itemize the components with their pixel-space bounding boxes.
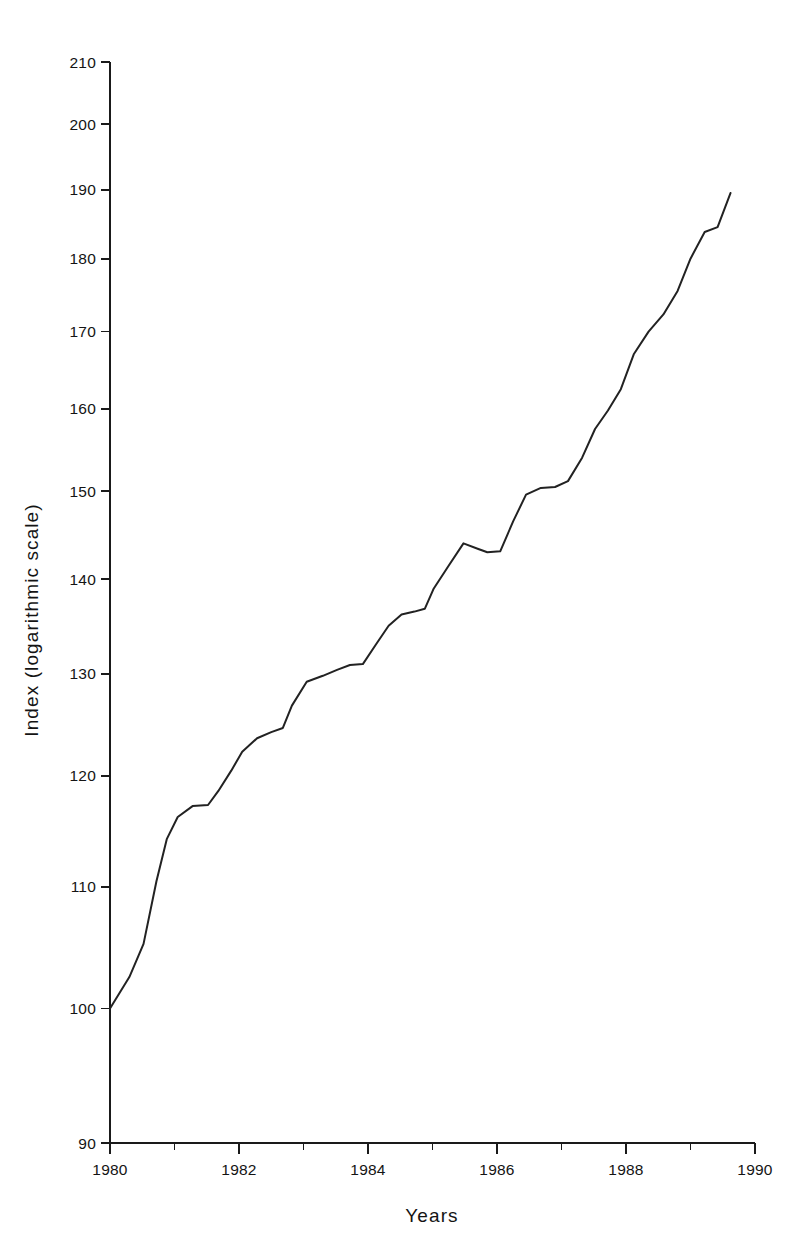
chart-figure: 90100110120130140150160170180190200210 1… — [0, 0, 805, 1259]
y-tick-label: 120 — [70, 767, 97, 784]
line-chart: 90100110120130140150160170180190200210 1… — [0, 0, 805, 1259]
y-tick-label: 180 — [70, 250, 97, 267]
x-axis-ticks: 198019821984198619881990 — [92, 1143, 772, 1178]
y-tick-label: 160 — [70, 400, 97, 417]
y-tick-label: 110 — [71, 878, 96, 895]
y-tick-label: 170 — [70, 323, 97, 340]
y-tick-label: 100 — [70, 1000, 97, 1017]
x-tick-label: 1990 — [737, 1161, 772, 1178]
y-axis-title: Index (logarithmic scale) — [21, 503, 42, 736]
y-tick-label: 210 — [70, 54, 97, 71]
y-tick-label: 90 — [78, 1135, 96, 1152]
y-tick-label: 130 — [70, 665, 97, 682]
y-tick-label: 150 — [70, 483, 97, 500]
data-series-line — [110, 193, 730, 1009]
x-tick-label: 1982 — [221, 1161, 256, 1178]
x-tick-label: 1986 — [479, 1161, 514, 1178]
x-tick-label: 1988 — [608, 1161, 643, 1178]
y-tick-label: 200 — [70, 116, 97, 133]
x-axis-title: Years — [405, 1205, 458, 1226]
x-tick-label: 1980 — [92, 1161, 127, 1178]
y-axis-ticks: 90100110120130140150160170180190200210 — [70, 54, 110, 1152]
y-tick-label: 190 — [70, 181, 97, 198]
y-tick-label: 140 — [70, 571, 97, 588]
x-tick-label: 1984 — [350, 1161, 385, 1178]
